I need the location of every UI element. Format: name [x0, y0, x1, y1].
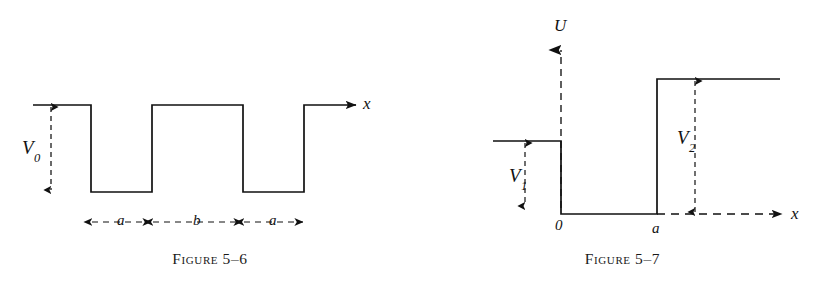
figure-5-6: V0 x a b a Figure 5–6 [0, 0, 420, 296]
label-x-axis: x [791, 205, 799, 222]
tick-label-zero: 0 [555, 218, 563, 233]
label-dimension-a2: a [269, 213, 277, 228]
label-v0: V0 [22, 138, 40, 161]
label-dimension-b: b [193, 213, 201, 228]
label-dimension-a1: a [117, 213, 125, 228]
figure-5-7: U x V1 V2 0 a Figure 5–7 [420, 0, 825, 296]
figure-5-7-caption: Figure 5–7 [420, 250, 825, 268]
label-v1: V1 [509, 166, 527, 189]
tick-label-a: a [652, 221, 660, 236]
label-u-axis: U [554, 17, 566, 34]
potential-curve [33, 105, 347, 192]
figure-5-7-diagram [420, 0, 825, 250]
label-v2: V2 [677, 128, 695, 151]
potential-curve [493, 79, 780, 214]
figure-5-6-caption: Figure 5–6 [0, 250, 420, 268]
label-x-axis: x [363, 95, 371, 112]
figure-5-6-diagram [0, 0, 420, 250]
figure-page: V0 x a b a Figure 5–6 [0, 0, 825, 296]
